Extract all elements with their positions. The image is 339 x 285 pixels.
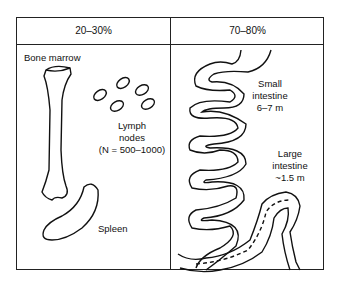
large-intestine-label-line1: Large	[270, 148, 310, 159]
large-intestine-icon	[178, 192, 300, 272]
lymph-nodes-icon	[92, 75, 157, 113]
lymph-nodes-label-line1: Lymph	[112, 120, 152, 131]
spleen-label: Spleen	[98, 223, 128, 234]
small-intestine-label-line1: Small	[250, 78, 290, 89]
lymph-nodes-label-line2: nodes	[112, 132, 152, 143]
bone-marrow-icon	[42, 66, 71, 200]
large-intestine-length: ~1.5 m	[270, 172, 310, 183]
small-intestine-label-line2: intestine	[250, 90, 290, 101]
anatomy-illustration	[0, 0, 339, 285]
bone-marrow-label: Bone marrow	[24, 52, 81, 63]
large-intestine-label-line2: intestine	[270, 160, 310, 171]
small-intestine-length: 6–7 m	[250, 102, 290, 113]
lymph-nodes-count: (N = 500–1000)	[92, 144, 172, 155]
spleen-icon	[43, 184, 98, 240]
